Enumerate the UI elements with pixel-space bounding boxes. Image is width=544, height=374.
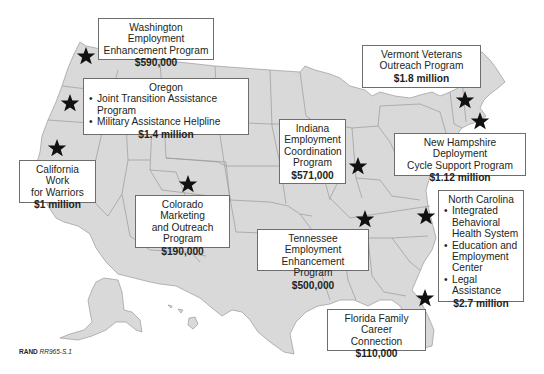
- callout-title-line: North Carolina: [443, 194, 519, 205]
- callout-title-line: Indiana: [284, 123, 341, 134]
- callout-title-line: for Warriors: [24, 187, 91, 198]
- callout-amount: $571,000: [284, 170, 341, 181]
- callout-title-line: Washington Employment: [103, 22, 209, 45]
- callout-title-line: Program: [140, 233, 225, 244]
- hawaii-islands: [168, 305, 198, 329]
- callout-bullet-item: Legal Assistance: [443, 274, 519, 297]
- callout-title-line: Connection: [332, 336, 421, 347]
- callout-amount: $1.4 million: [88, 129, 244, 140]
- callout-bullet-list: Joint Transition Assistance Program Mili…: [88, 93, 244, 127]
- caption-code: RR965-S.1: [40, 348, 72, 355]
- callout-title-line: Enhancement Program: [262, 256, 364, 279]
- caption-brand: RAND: [19, 348, 38, 355]
- callout-title-line: Enhancement Program: [103, 45, 209, 56]
- callout-title-line: Cycle Support Program: [399, 160, 521, 171]
- callout-amount: $1.8 million: [367, 73, 476, 84]
- callout-vermont: Vermont Veterans Outreach Program $1.8 m…: [362, 45, 481, 88]
- callout-amount: $1 million: [24, 199, 91, 210]
- callout-title-line: Oregon: [88, 82, 244, 93]
- callout-bullet-item: Military Assistance Helpline: [88, 116, 244, 127]
- callout-title-line: Vermont Veterans: [367, 49, 476, 60]
- alaska-landmass: [60, 278, 142, 340]
- callout-amount: $500,000: [262, 280, 364, 291]
- callout-washington: Washington Employment Enhancement Progra…: [98, 18, 214, 60]
- callout-oregon: Oregon Joint Transition Assistance Progr…: [83, 78, 249, 135]
- callout-title-line: Colorado Marketing: [140, 199, 225, 222]
- callout-title-line: Employment: [284, 134, 341, 145]
- callout-colorado: Colorado Marketing and Outreach Program …: [135, 195, 230, 248]
- callout-indiana: Indiana Employment Coordination Program …: [279, 119, 346, 184]
- callout-amount: $590,000: [103, 57, 209, 68]
- callout-amount: $1.12 million: [399, 172, 521, 183]
- callout-tennessee: Tennessee Employment Enhancement Program…: [257, 229, 369, 271]
- callout-new-hampshire: New Hampshire Deployment Cycle Support P…: [394, 133, 526, 176]
- callout-amount: $110,000: [332, 348, 421, 359]
- callout-title-line: Florida Family Career: [332, 313, 421, 336]
- callout-amount: $2.7 million: [443, 298, 519, 309]
- callout-california: California Work for Warriors $1 million: [19, 160, 96, 203]
- callout-title-line: Tennessee Employment: [262, 233, 364, 256]
- callout-title-line: California Work: [24, 164, 91, 187]
- callout-title-line: Coordination: [284, 146, 341, 157]
- callout-florida: Florida Family Career Connection $110,00…: [327, 309, 426, 351]
- callout-title-line: Outreach Program: [367, 60, 476, 71]
- callout-bullet-item: Integrated Behavioral Health System: [443, 205, 519, 239]
- callout-bullet-item: Joint Transition Assistance Program: [88, 93, 244, 116]
- callout-amount: $190,000: [140, 246, 225, 257]
- callout-title-line: and Outreach: [140, 222, 225, 233]
- callout-title-line: Program: [284, 157, 341, 168]
- callout-title-line: New Hampshire Deployment: [399, 137, 521, 160]
- callout-north-carolina: North Carolina Integrated Behavioral Hea…: [438, 190, 524, 302]
- figure-caption: RAND RR965-S.1: [19, 348, 72, 355]
- callout-bullet-list: Integrated Behavioral Health System Educ…: [443, 205, 519, 296]
- callout-bullet-item: Education and Employment Center: [443, 240, 519, 274]
